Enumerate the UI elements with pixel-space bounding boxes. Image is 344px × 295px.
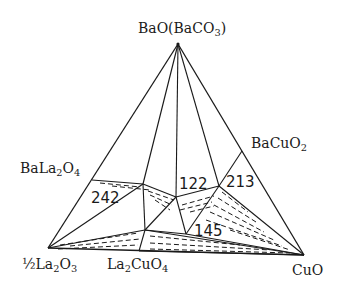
label-subscript: 2 — [301, 142, 307, 153]
label-half-la2o3: ½La2O3 — [22, 257, 77, 274]
label-text: CuO — [131, 256, 162, 272]
label-subscript: 4 — [162, 263, 168, 274]
label-text: O — [59, 256, 70, 272]
label-subscript: 4 — [74, 167, 80, 178]
label-text: ) — [221, 20, 226, 36]
label-text: La — [107, 256, 125, 272]
label-bao-baco3: BaO(BaCO3) — [138, 21, 226, 38]
label-text: CuO — [292, 262, 323, 278]
label-phase-213: 213 — [226, 175, 255, 190]
label-cuo: CuO — [292, 263, 323, 277]
label-phase-145: 145 — [194, 224, 223, 239]
label-phase-122: 122 — [179, 177, 208, 192]
label-text: ½La — [22, 256, 53, 272]
phase-point-markers — [176, 42, 179, 45]
label-text: BaLa — [20, 160, 56, 176]
label-bala2o4: BaLa2O4 — [20, 161, 80, 178]
label-bacuo2: BaCuO2 — [251, 136, 307, 153]
label-phase-242: 242 — [91, 191, 120, 206]
label-text: O — [63, 160, 74, 176]
label-text: BaO(BaCO — [138, 20, 214, 36]
label-subscript: 3 — [71, 263, 77, 274]
label-text: BaCuO — [251, 135, 301, 151]
label-la2cuo4: La2CuO4 — [107, 257, 168, 274]
